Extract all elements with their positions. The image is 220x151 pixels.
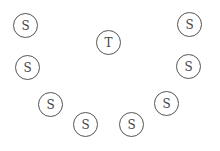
node-label: T: [104, 36, 112, 50]
node-s-bottom-right: S: [119, 112, 144, 137]
node-label: S: [21, 19, 29, 33]
node-label: S: [184, 60, 192, 74]
node-label: S: [23, 61, 31, 75]
node-label: S: [46, 98, 54, 112]
node-t-center: T: [96, 30, 121, 55]
node-label: S: [81, 118, 89, 132]
node-s-bottom-left: S: [73, 112, 98, 137]
node-label: S: [162, 97, 170, 111]
node-s-left-2: S: [15, 55, 40, 80]
node-s-top-left: S: [13, 13, 38, 38]
node-label: S: [127, 118, 135, 132]
node-s-left-3: S: [38, 92, 63, 117]
node-s-right-2: S: [176, 54, 201, 79]
node-s-top-right: S: [177, 12, 202, 37]
node-s-right-3: S: [154, 91, 179, 116]
node-label: S: [185, 18, 193, 32]
